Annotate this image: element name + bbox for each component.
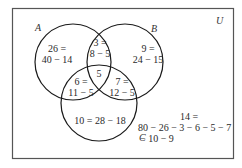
region-ab-only: 3 = 8 − 5 bbox=[84, 37, 116, 59]
universe-label: U bbox=[216, 15, 223, 26]
region-outside: 14 = 80 − 26 − 3 − 6 − 5 − 7 − 10 − 9 bbox=[138, 111, 234, 144]
region-outside-formula-cont: − 10 − 9 bbox=[138, 133, 234, 144]
region-outside-formula: 80 − 26 − 3 − 6 − 5 − 7 bbox=[138, 122, 234, 133]
region-ac-only: 6 = 11 − 5 bbox=[64, 76, 98, 98]
region-outside-count: 14 = bbox=[138, 111, 234, 122]
region-bc-only-formula: 12 − 5 bbox=[104, 87, 140, 98]
region-ac-only-count: 6 = bbox=[64, 76, 98, 87]
region-ab-only-count: 3 = bbox=[84, 37, 116, 48]
region-b-only-formula: 24 − 15 bbox=[126, 54, 170, 65]
region-a-only-count: 26 = bbox=[36, 43, 78, 54]
region-b-only-count: 9 = bbox=[126, 43, 170, 54]
region-ab-only-formula: 8 − 5 bbox=[84, 48, 116, 59]
region-bc-only-count: 7 = bbox=[104, 76, 140, 87]
region-bc-only: 7 = 12 − 5 bbox=[104, 76, 140, 98]
set-label-b: B bbox=[151, 23, 157, 34]
region-c-only: 10 = 28 − 18 bbox=[70, 115, 130, 126]
region-ac-only-formula: 11 − 5 bbox=[64, 87, 98, 98]
region-a-only: 26 = 40 − 14 bbox=[36, 43, 78, 65]
region-b-only: 9 = 24 − 15 bbox=[126, 43, 170, 65]
region-a-only-formula: 40 − 14 bbox=[36, 54, 78, 65]
set-label-a: A bbox=[35, 22, 41, 33]
region-c-only-formula: 10 = 28 − 18 bbox=[70, 115, 130, 126]
